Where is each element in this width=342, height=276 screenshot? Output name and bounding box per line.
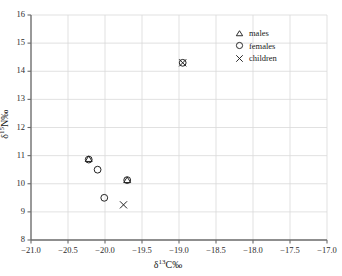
legend-label: females bbox=[246, 40, 275, 53]
data-point-females bbox=[94, 166, 101, 173]
axis-ticks bbox=[28, 15, 328, 244]
marker-triangle-males bbox=[236, 30, 242, 35]
x-tick-label: −17.0 bbox=[309, 245, 342, 255]
x-tick-label: −19.5 bbox=[124, 245, 160, 255]
y-axis-title: δ15N‰ bbox=[0, 92, 10, 156]
y-tick-label: 15 bbox=[1, 37, 25, 47]
legend-label: males bbox=[246, 27, 269, 40]
marker-cross-children bbox=[179, 59, 186, 66]
y-tick-label: 14 bbox=[1, 65, 25, 75]
x-tick-label: −18.5 bbox=[198, 245, 234, 255]
y-axis-title-delta: δ bbox=[0, 134, 10, 139]
legend-item-males: males bbox=[232, 27, 277, 40]
x-tick-label: −19.0 bbox=[161, 245, 197, 255]
legend-cross-icon bbox=[232, 53, 246, 64]
marker-circle-females bbox=[236, 43, 242, 49]
x-tick-label: −17.5 bbox=[272, 245, 308, 255]
y-tick-label: 9 bbox=[1, 206, 25, 216]
data-points bbox=[85, 59, 186, 208]
legend-triangle-icon bbox=[232, 28, 246, 39]
marker-circle-females bbox=[101, 194, 108, 201]
x-tick-label: −20.0 bbox=[87, 245, 123, 255]
y-axis-title-tail: N‰ bbox=[0, 110, 10, 127]
marker-circle-females bbox=[94, 166, 101, 173]
y-tick-label: 10 bbox=[1, 178, 25, 188]
x-tick-label: −20.5 bbox=[50, 245, 86, 255]
y-tick-label: 16 bbox=[1, 9, 25, 19]
legend-circle-icon bbox=[232, 40, 246, 51]
y-axis-title-superscript: 15 bbox=[0, 127, 6, 134]
data-point-children bbox=[120, 201, 127, 208]
legend-label: children bbox=[246, 52, 277, 65]
gridlines bbox=[31, 15, 327, 240]
data-point-females bbox=[101, 194, 108, 201]
data-point-children bbox=[179, 59, 186, 66]
x-tick-label: −18.0 bbox=[235, 245, 271, 255]
y-tick-label: 8 bbox=[1, 234, 25, 244]
x-axis-title-superscript: 13 bbox=[159, 258, 166, 266]
legend-item-females: females bbox=[232, 40, 277, 53]
x-axis-title: δ13C‰ bbox=[0, 258, 336, 270]
x-tick-label: −21.0 bbox=[13, 245, 49, 255]
marker-cross-children bbox=[120, 201, 127, 208]
legend: malesfemaleschildren bbox=[232, 27, 277, 65]
marker-cross-children bbox=[236, 55, 243, 62]
legend-item-children: children bbox=[232, 52, 277, 65]
x-axis-title-tail: C‰ bbox=[166, 259, 183, 270]
